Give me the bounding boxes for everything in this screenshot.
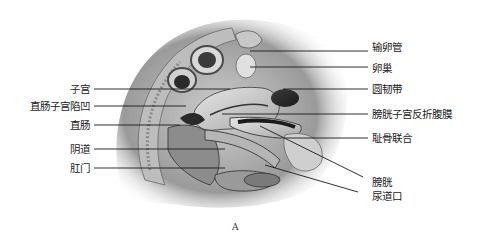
label-urethral-orifice: 尿道口 <box>372 190 402 202</box>
label-ovary: 卵巢 <box>372 62 392 74</box>
ovary-shape <box>236 54 256 78</box>
label-uterus: 子宫 <box>70 83 90 95</box>
label-vagina: 阴道 <box>70 143 90 155</box>
label-round-ligament: 圆韧带 <box>372 83 402 95</box>
label-bladder: 膀胱 <box>372 176 392 188</box>
anatomy-figure: 子宫 直肠子宫陷凹 直肠 阴道 肛门 输卵管 卵巢 圆韧带 膀胱子宫反折腹膜 耻… <box>0 0 482 246</box>
label-fallopian-tube: 输卵管 <box>372 41 402 53</box>
label-rectum: 直肠 <box>70 119 90 131</box>
label-anus: 肛门 <box>70 162 90 174</box>
figure-caption: A <box>232 222 239 232</box>
round-ligament-shape <box>271 89 299 107</box>
label-vesicouterine-peritoneum: 膀胱子宫反折腹膜 <box>372 108 452 120</box>
label-rectouterine-pouch: 直肠子宫陷凹 <box>30 100 90 112</box>
label-pubic-symphysis: 耻骨联合 <box>372 132 412 144</box>
